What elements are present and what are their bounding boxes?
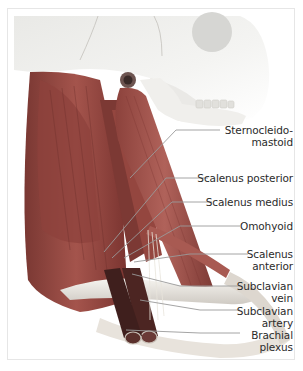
label-subclavian-artery: Subclavian artery [237, 305, 293, 329]
label-scalenus-anterior: Scalenus anterior [247, 248, 293, 272]
label-scalenus-posterior: Scalenus posterior [197, 172, 293, 184]
label-scalenus-medius: Scalenus medius [206, 196, 293, 208]
label-subclavian-vein: Subclavian vein [237, 280, 293, 304]
label-brachial-plexus: Brachial plexus [251, 329, 293, 353]
label-sternocleidomastoid: Sternocleido- mastoid [225, 124, 293, 148]
label-omohyoid: Omohyoid [240, 220, 293, 232]
